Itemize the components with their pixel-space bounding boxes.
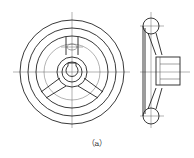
spoke-side-bottom: [148, 88, 162, 109]
side-view: [140, 12, 190, 128]
hub-side: [156, 57, 180, 85]
figure-caption: （a）: [0, 137, 194, 148]
spoke-side-top: [148, 33, 162, 55]
front-view: [13, 12, 130, 128]
handwheel-drawing: [0, 0, 194, 158]
